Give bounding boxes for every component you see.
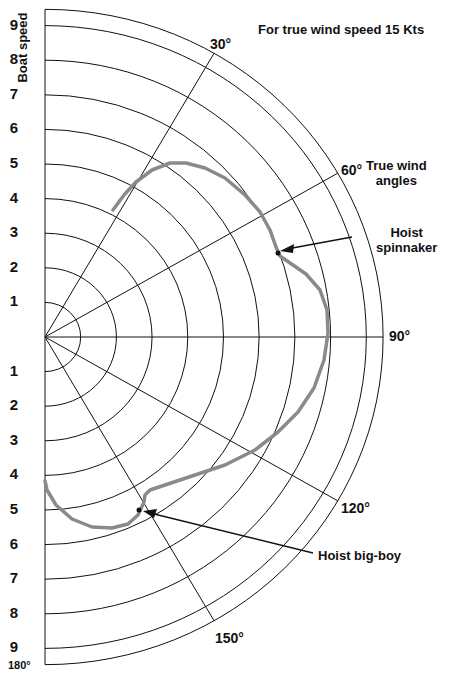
spinnaker-point: [276, 251, 281, 256]
hoist-spinnaker-label: Hoist spinnaker: [376, 225, 437, 255]
spinnaker-arrow-head: [280, 244, 294, 253]
annotation-arrows: [137, 237, 353, 553]
angle-label-120: 120°: [341, 500, 370, 516]
bigboy-arrow-head: [143, 509, 157, 518]
hoist-bigboy-label: Hoist big-boy: [318, 548, 401, 563]
tick-lower-1: 1: [2, 362, 18, 379]
spin-line2: spinnaker: [376, 240, 437, 255]
angle-label-180: 180°: [8, 659, 31, 671]
tick-lower-9: 9: [2, 638, 18, 655]
polar-curve: [45, 163, 328, 528]
tick-lower-4: 4: [2, 465, 18, 482]
tick-upper-4: 4: [2, 189, 18, 206]
tick-upper-9: 9: [2, 16, 18, 33]
polar-chart: [0, 0, 455, 679]
bigboy-point: [137, 508, 142, 513]
angle-label-30: 30°: [210, 36, 231, 52]
twa-line1: True wind: [366, 158, 427, 173]
tick-upper-8: 8: [2, 50, 18, 67]
chart-title: For true wind speed 15 Kts: [258, 22, 424, 37]
tick-upper-2: 2: [2, 258, 18, 275]
tick-lower-7: 7: [2, 569, 18, 586]
spin-line1: Hoist: [376, 225, 437, 240]
tick-lower-5: 5: [2, 500, 18, 517]
tick-lower-2: 2: [2, 396, 18, 413]
tick-lower-6: 6: [2, 535, 18, 552]
polar-grid: [45, 9, 383, 664]
tick-lower-8: 8: [2, 604, 18, 621]
tick-upper-5: 5: [2, 154, 18, 171]
tick-lower-3: 3: [2, 431, 18, 448]
tick-upper-7: 7: [2, 85, 18, 102]
angle-label-90: 90°: [389, 328, 410, 344]
angle-label-60: 60°: [341, 162, 362, 178]
tick-upper-3: 3: [2, 223, 18, 240]
angle-label-150: 150°: [215, 630, 244, 646]
tick-upper-6: 6: [2, 119, 18, 136]
twa-line2: angles: [366, 173, 427, 188]
tick-upper-1: 1: [2, 292, 18, 309]
true-wind-angles-label: True wind angles: [366, 158, 427, 188]
